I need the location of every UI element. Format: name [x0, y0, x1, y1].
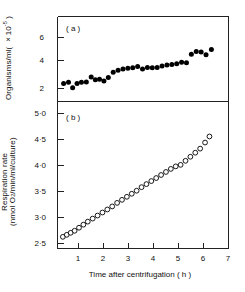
data-point	[154, 176, 159, 181]
data-point	[207, 134, 212, 139]
data-point	[120, 197, 125, 202]
data-point	[75, 81, 80, 86]
data-point	[89, 75, 94, 80]
data-point	[125, 66, 130, 71]
plot-area	[0, 0, 245, 292]
data-point	[124, 194, 129, 199]
data-point	[135, 64, 140, 69]
data-point	[81, 222, 86, 227]
data-point	[149, 179, 154, 184]
data-point	[120, 67, 125, 72]
data-point	[61, 81, 66, 86]
data-point	[79, 80, 84, 85]
data-point	[193, 150, 198, 155]
data-point	[168, 167, 173, 172]
data-point	[155, 65, 160, 70]
data-point	[139, 185, 144, 190]
data-point	[199, 50, 204, 55]
data-point	[106, 75, 111, 80]
data-point	[189, 52, 194, 57]
data-point	[97, 77, 102, 82]
data-point	[173, 164, 178, 169]
data-point	[90, 216, 95, 221]
data-point	[130, 65, 135, 70]
data-point	[116, 68, 121, 73]
data-point	[209, 47, 214, 52]
data-series-panel-b	[60, 134, 211, 239]
data-point	[194, 49, 199, 54]
data-point	[144, 182, 149, 187]
data-point	[140, 67, 145, 72]
data-point	[115, 200, 120, 205]
data-point	[111, 70, 116, 75]
data-point	[105, 207, 110, 212]
data-point	[160, 63, 165, 68]
data-point	[145, 65, 150, 70]
data-point	[72, 228, 77, 233]
data-point	[179, 60, 184, 65]
data-point	[77, 225, 82, 230]
data-point	[188, 154, 193, 159]
data-point	[84, 79, 89, 84]
ticks-group	[58, 38, 204, 249]
data-point	[159, 173, 164, 178]
data-series-panel-a	[61, 47, 214, 90]
data-point	[184, 60, 189, 65]
data-point	[204, 52, 209, 57]
data-point	[134, 188, 139, 193]
data-point	[101, 78, 106, 83]
data-point	[66, 80, 71, 85]
data-point	[129, 191, 134, 196]
data-point	[110, 204, 115, 209]
data-point	[164, 170, 169, 175]
data-point	[70, 85, 75, 90]
data-point	[95, 213, 100, 218]
data-point	[198, 146, 203, 151]
data-point	[150, 65, 155, 70]
data-point	[183, 158, 188, 163]
figure-container: Organisms/ml( ×10-5 ) Respiration rate (…	[0, 0, 245, 292]
data-point	[100, 210, 105, 215]
data-point	[178, 162, 183, 167]
data-point	[203, 140, 208, 145]
data-point	[169, 62, 174, 67]
data-point	[85, 219, 90, 224]
data-point	[164, 62, 169, 67]
data-point	[174, 61, 179, 66]
